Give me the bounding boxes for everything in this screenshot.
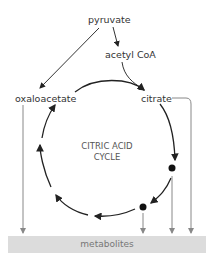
cycle-title-line1: CITRIC ACID [72,141,142,152]
cycle-arc-bottom-to-left [56,195,88,215]
label-citrate: citrate [141,94,172,104]
cycle-arc-left-to-upper-left [40,145,51,187]
cycle-title-line2: CYCLE [72,152,142,163]
arrow-acetylcoa-to-citrate [122,62,144,90]
cycle-arc-step2-to-bottom [95,209,135,216]
export-arrow-citrate [172,98,191,233]
cycle-arc-step1-to-step2 [151,178,171,203]
cycle-title: CITRIC ACID CYCLE [72,141,142,163]
label-pyruvate: pyruvate [88,15,131,25]
label-acetyl-coa: acetyl CoA [105,50,156,60]
intermediate-dot-1 [169,165,176,172]
metabolites-bar: metabolites [8,236,206,253]
intermediate-dot-2 [140,204,147,211]
label-oxaloacetate: oxaloacetate [15,94,76,104]
arrow-pyruvate-to-oxaloacetate [40,28,99,88]
arrow-pyruvate-to-acetylcoa [113,27,118,46]
citric-acid-cycle-diagram [0,0,209,262]
cycle-arc-upper-left-to-oxaloacetate [42,105,55,138]
cycle-arc-citrate-to-step1 [160,104,175,160]
